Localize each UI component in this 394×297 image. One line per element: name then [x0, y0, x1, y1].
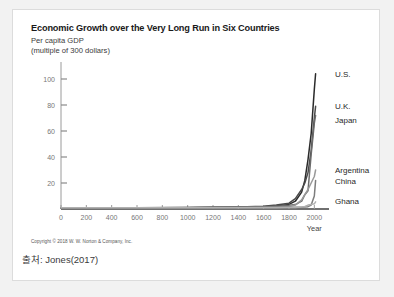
x-tick-label: 1200: [205, 214, 221, 221]
series-line-argentina: [61, 170, 316, 208]
series-line-us: [61, 74, 316, 208]
x-tick-label: 400: [106, 214, 118, 221]
series-label-china: China: [335, 177, 356, 186]
series-label-us: U.S.: [335, 70, 351, 79]
series-label-argentina: Argentina: [335, 166, 370, 175]
series-label-ghana: Ghana: [335, 197, 360, 206]
y-tick-label: 20: [47, 180, 55, 187]
axis-ticks-layer: 2040608010002004006008001000120014001600…: [43, 76, 322, 222]
x-tick-label: 600: [131, 214, 143, 221]
y-tick-label: 100: [43, 76, 55, 83]
chart-figure: Economic Growth over the Very Long Run i…: [13, 10, 379, 280]
x-tick-label: 1400: [231, 214, 247, 221]
series-line-uk: [61, 106, 316, 207]
x-tick-label: 0: [59, 214, 63, 221]
series-line-china: [61, 180, 316, 207]
x-axis-title: Year: [307, 224, 322, 233]
x-tick-label: 1600: [256, 214, 272, 221]
y-tick-label: 40: [47, 154, 55, 161]
series-layer: [61, 74, 316, 208]
series-line-japan: [61, 115, 316, 207]
series-label-japan: Japan: [335, 116, 357, 125]
x-tick-label: 1800: [281, 214, 297, 221]
x-tick-label: 2000: [307, 214, 323, 221]
series-labels-layer: U.S.U.K.JapanArgentinaChinaGhana: [335, 70, 370, 206]
series-label-uk: U.K.: [335, 102, 351, 111]
source-note: 출처: Jones(2017): [22, 252, 98, 266]
line-chart-plot: 2040608010002004006008001000120014001600…: [13, 10, 379, 240]
axis-title-layer: Year: [307, 224, 322, 233]
axis-layer: [61, 62, 329, 209]
x-tick-label: 200: [80, 214, 92, 221]
screenshot-root: Economic Growth over the Very Long Run i…: [0, 0, 394, 297]
chart-card: Economic Growth over the Very Long Run i…: [12, 9, 380, 281]
y-tick-label: 60: [47, 128, 55, 135]
x-tick-label: 1000: [180, 214, 196, 221]
y-tick-label: 80: [47, 102, 55, 109]
x-tick-label: 800: [156, 214, 168, 221]
copyright-notice: Copyright © 2018 W. W. Norton & Company,…: [31, 239, 132, 244]
